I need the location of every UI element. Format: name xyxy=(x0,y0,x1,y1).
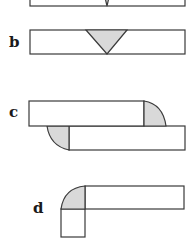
panel-b: b xyxy=(9,30,185,54)
panel-b-label: b xyxy=(9,33,20,51)
panel-c-label: c xyxy=(9,103,18,121)
panel-d-corner-weld xyxy=(61,186,85,209)
panel-c-upper-plate xyxy=(29,101,144,126)
panel-a xyxy=(30,0,185,6)
panel-c-left-fillet-weld xyxy=(47,126,69,150)
panel-c: c xyxy=(9,101,185,150)
panel-d-horizontal-plate xyxy=(85,186,184,209)
panel-c-right-fillet-weld xyxy=(144,101,166,126)
weld-diagram: b c d xyxy=(0,0,190,248)
panel-d-label: d xyxy=(33,199,44,217)
panel-d-vertical-plate xyxy=(61,209,85,237)
panel-c-lower-plate xyxy=(69,126,185,150)
panel-d: d xyxy=(33,186,184,237)
